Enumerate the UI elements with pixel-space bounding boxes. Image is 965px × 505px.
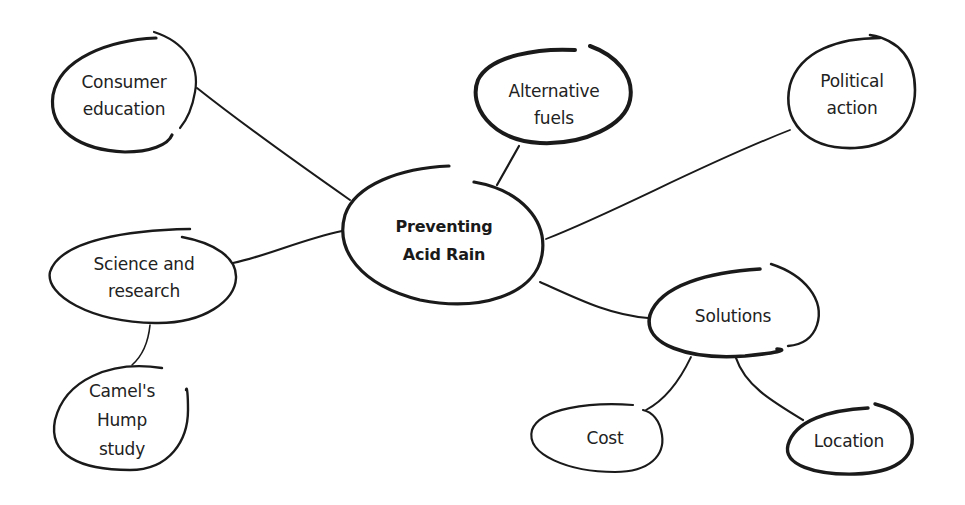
- node-central-line-1: Preventing: [395, 213, 492, 241]
- node-label-line: Consumer: [81, 69, 166, 96]
- node-alternative-fuels[interactable]: Alternative fuels: [508, 78, 599, 132]
- connector-central-political-action: [546, 130, 790, 239]
- connector-central-alternative-fuels: [497, 146, 519, 185]
- connector-solutions-cost: [646, 357, 691, 410]
- node-label-line: Political: [820, 68, 884, 95]
- node-science-and-research[interactable]: Science and research: [93, 251, 194, 305]
- node-camels-hump-study[interactable]: Camel's Hump study: [89, 377, 155, 464]
- node-label-line: Cost: [587, 425, 624, 452]
- node-label-line: Alternative: [508, 78, 599, 105]
- node-label-line: research: [93, 278, 194, 305]
- connector-central-solutions: [540, 282, 648, 318]
- node-label-line: Location: [814, 428, 884, 455]
- node-central[interactable]: Preventing Acid Rain: [395, 213, 492, 269]
- node-label-line: education: [81, 96, 166, 123]
- connector-science-camels-hump: [132, 325, 150, 365]
- node-label-line: action: [820, 95, 884, 122]
- node-label-line: study: [89, 435, 155, 464]
- node-cost[interactable]: Cost: [587, 425, 624, 452]
- node-label-line: fuels: [508, 105, 599, 132]
- node-location[interactable]: Location: [814, 428, 884, 455]
- bubble-solutions-right: [771, 264, 819, 346]
- connector-central-science-and-research: [233, 231, 342, 263]
- node-political-action[interactable]: Political action: [820, 68, 884, 122]
- node-solutions[interactable]: Solutions: [695, 303, 771, 330]
- node-consumer-education[interactable]: Consumer education: [81, 69, 166, 123]
- node-label-line: Camel's: [89, 377, 155, 406]
- node-label-line: Solutions: [695, 303, 771, 330]
- node-central-line-2: Acid Rain: [395, 241, 492, 269]
- node-label-line: Science and: [93, 251, 194, 278]
- connector-central-consumer-education: [197, 88, 350, 200]
- node-label-line: Hump: [89, 406, 155, 435]
- connector-solutions-location: [736, 358, 803, 420]
